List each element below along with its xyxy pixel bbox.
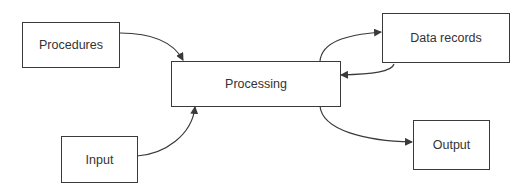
arrow-processing-to-output [320,106,412,142]
node-output: Output [413,120,490,170]
arrow-processing-to-data-records [320,32,381,61]
node-data-records: Data records [382,13,510,63]
arrow-input-to-processing [137,107,195,156]
node-processing: Processing [171,61,341,107]
node-label: Input [86,153,114,167]
node-input: Input [61,136,138,183]
node-label: Procedures [39,38,103,52]
node-label: Processing [225,77,287,91]
node-procedures: Procedures [22,22,120,68]
node-label: Data records [410,31,482,45]
arrow-data-records-to-processing [341,64,394,75]
node-label: Output [433,138,471,152]
arrow-procedures-to-processing [120,33,183,60]
